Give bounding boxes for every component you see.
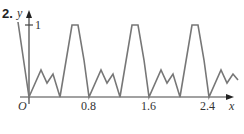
- question-number: 2.: [2, 6, 13, 21]
- y-axis-label: y: [16, 6, 23, 20]
- x-tick-label-1: 1.6: [141, 99, 156, 113]
- y-axis-arrow-icon: [26, 10, 32, 18]
- chart: 2. y 1 O 0.8 1.6 2.4 x: [0, 0, 244, 134]
- x-axis-label: x: [228, 99, 235, 113]
- origin-label: O: [18, 99, 27, 113]
- function-curve: [18, 22, 238, 97]
- x-tick-label-0: 0.8: [81, 99, 96, 113]
- y-tick-label: 1: [35, 18, 41, 32]
- x-tick-label-2: 2.4: [200, 99, 215, 113]
